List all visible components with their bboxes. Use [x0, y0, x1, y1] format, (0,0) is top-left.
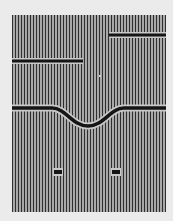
dot-right	[111, 168, 121, 176]
center-mark	[99, 75, 101, 77]
pattern-overlay	[0, 0, 173, 221]
curved-bar	[12, 108, 166, 126]
dot-left	[53, 168, 63, 176]
